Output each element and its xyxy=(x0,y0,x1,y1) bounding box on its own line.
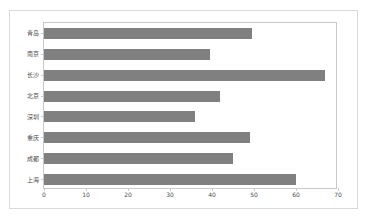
category-label: 深圳 xyxy=(27,114,39,120)
bar-row: 重庆 xyxy=(44,127,336,148)
x-axis-tick-label: 30 xyxy=(166,192,174,198)
bar-row: 长沙 xyxy=(44,65,336,86)
bar-row: 青岛 xyxy=(44,23,336,44)
category-tick xyxy=(41,179,44,180)
category-tick xyxy=(41,96,44,97)
chart-frame: 青岛南京长沙北京深圳重庆成都上海 010203040506070 xyxy=(9,10,358,209)
bar-series: 青岛南京长沙北京深圳重庆成都上海 xyxy=(44,23,336,188)
x-axis-tick-label: 20 xyxy=(124,192,132,198)
category-label: 上海 xyxy=(27,177,39,183)
category-label: 长沙 xyxy=(27,72,39,78)
x-axis-tick-label: 0 xyxy=(42,192,46,198)
bar xyxy=(44,28,252,39)
category-tick xyxy=(41,116,44,117)
bar-row: 深圳 xyxy=(44,107,336,128)
bar xyxy=(44,49,210,60)
bar xyxy=(44,70,325,81)
bar-row: 南京 xyxy=(44,44,336,65)
category-tick xyxy=(41,137,44,138)
category-tick xyxy=(41,158,44,159)
x-axis-tick-label: 60 xyxy=(292,192,300,198)
bar-row: 北京 xyxy=(44,86,336,107)
category-label: 重庆 xyxy=(27,135,39,141)
bar xyxy=(44,111,195,122)
category-label: 南京 xyxy=(27,51,39,57)
bar xyxy=(44,132,250,143)
plot-area: 青岛南京长沙北京深圳重庆成都上海 010203040506070 xyxy=(43,22,337,189)
bar-row: 上海 xyxy=(44,169,336,190)
x-axis-tick-label: 70 xyxy=(334,192,342,198)
category-label: 成都 xyxy=(27,156,39,162)
x-axis-tick-label: 10 xyxy=(82,192,90,198)
bar xyxy=(44,174,296,185)
category-tick xyxy=(41,54,44,55)
x-axis-tick-label: 50 xyxy=(250,192,258,198)
x-axis-tick-label: 40 xyxy=(208,192,216,198)
category-label: 青岛 xyxy=(27,30,39,36)
bar xyxy=(44,91,220,102)
category-tick xyxy=(41,33,44,34)
category-tick xyxy=(41,75,44,76)
x-axis: 010203040506070 xyxy=(44,188,336,208)
category-label: 北京 xyxy=(27,93,39,99)
bar-row: 成都 xyxy=(44,148,336,169)
bar xyxy=(44,153,233,164)
